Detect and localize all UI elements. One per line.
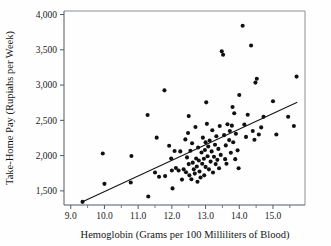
data-point [211,171,215,175]
data-point [186,131,190,135]
data-point [195,180,199,184]
data-point [274,132,278,136]
data-point [259,125,263,129]
data-point [227,138,231,142]
data-point [206,154,210,158]
x-tick-label: 12.0 [164,211,181,221]
data-point [183,137,187,141]
data-point [170,168,174,172]
x-tick-label: 9.0 [65,211,77,221]
y-tick-label: 4,000 [36,10,58,20]
data-point [237,166,241,170]
data-point [234,132,238,136]
data-point [252,138,256,142]
x-tick-label: 11.0 [130,211,147,221]
data-point [209,160,213,164]
data-point [223,157,227,161]
data-point [197,159,201,163]
data-point [157,175,161,179]
data-point [178,149,182,153]
data-point [286,115,290,119]
data-point [197,169,201,173]
data-point [146,113,150,117]
data-point [217,166,221,170]
data-point [230,105,234,109]
data-point [210,149,214,153]
data-point [233,157,237,161]
data-point [193,125,197,129]
data-point [216,147,220,151]
data-point [189,177,193,181]
data-point [153,171,157,175]
data-point [220,49,224,53]
data-point [224,143,228,147]
data-point [198,175,202,179]
data-point [210,128,214,132]
data-point [193,172,197,176]
data-point [205,122,209,126]
data-point [191,161,195,165]
data-point [212,155,216,159]
data-point [202,157,206,161]
x-tick-label: 14.0 [231,211,248,221]
data-point [185,155,189,159]
data-point [232,111,236,115]
data-point [102,182,106,186]
data-point [129,180,133,184]
data-point [292,124,296,128]
y-axis-title: Take-Home Pay (Rupiahs per Week) [4,31,16,185]
data-point [192,167,196,171]
x-tick-label: 13.0 [197,211,214,221]
data-point [214,134,218,138]
data-point [229,151,233,155]
data-point [224,162,228,166]
data-point [173,149,177,153]
data-point [251,129,255,133]
data-point [199,150,203,154]
data-point [213,143,217,147]
data-point [225,122,229,126]
data-point [163,174,167,178]
data-point [202,173,206,177]
data-point [271,99,275,103]
x-axis-title: Hemoglobin (Grams per 100 Milliliters of… [81,229,290,241]
data-point [219,153,223,157]
y-tick-label: 1,500 [36,186,58,196]
data-point [184,170,188,174]
data-point [221,53,225,57]
data-point [218,124,222,128]
data-point [180,178,184,182]
data-point [190,141,194,145]
data-point [207,167,211,171]
data-point [187,173,191,177]
data-point [201,136,205,140]
x-tick-label: 10.0 [96,211,113,221]
y-tick-label: 3,500 [36,45,58,55]
data-point [167,144,171,148]
data-point [215,158,219,162]
data-point [214,162,218,166]
data-point [80,200,84,204]
data-point [244,135,248,139]
data-point [257,132,261,136]
y-tick-label: 2,500 [36,116,58,126]
scatter-plot: 9.010.011.012.013.014.015.0 1,5002,0002,… [0,0,331,246]
data-point [231,140,235,144]
data-point [177,168,181,172]
chart-page: 9.010.011.012.013.014.015.0 1,5002,0002,… [0,0,331,246]
data-point [249,44,253,48]
data-point [246,113,250,117]
x-tick-label: 15.0 [265,211,282,221]
data-point [101,151,105,155]
data-point [146,194,150,198]
data-point [170,186,174,190]
data-point [295,75,299,79]
data-point [155,136,159,140]
data-point [204,165,208,169]
data-point [203,148,207,152]
data-point [253,81,257,85]
data-point [162,88,166,92]
data-point [241,24,245,28]
data-point [204,100,208,104]
data-point [230,124,234,128]
